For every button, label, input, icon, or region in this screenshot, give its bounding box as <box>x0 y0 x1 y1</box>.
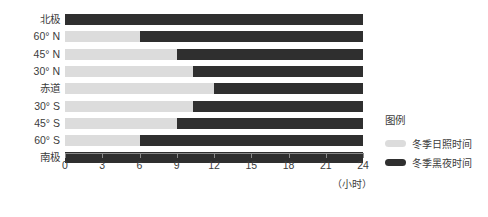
bar-segment <box>65 14 363 25</box>
bar-segment <box>65 66 193 77</box>
axis-tick-label: 21 <box>320 159 332 171</box>
legend-label: 冬季日照时间 <box>412 136 472 151</box>
category-label: 60° N <box>2 31 60 42</box>
bar-row <box>65 66 363 77</box>
bar-segment <box>214 83 363 94</box>
bar-segment <box>65 135 140 146</box>
axis-tick <box>102 153 103 158</box>
bar-row <box>65 49 363 60</box>
bar-segment <box>140 135 364 146</box>
bar-row <box>65 31 363 42</box>
bar-segment <box>177 49 363 60</box>
bar-segment <box>65 101 193 112</box>
bar-segment <box>140 31 364 42</box>
category-label: 北极 <box>2 14 60 25</box>
category-label: 30° S <box>2 101 60 112</box>
axis-tick-label: 3 <box>99 159 105 171</box>
axis-tick <box>177 153 178 158</box>
legend-title: 图例 <box>385 112 472 127</box>
bar-row <box>65 135 363 146</box>
category-axis: 北极60° N45° N30° N赤道30° S45° S60° S南极 <box>0 14 60 153</box>
axis-tick-label: 18 <box>283 159 295 171</box>
category-label: 45° S <box>2 118 60 129</box>
bar-segment <box>193 101 363 112</box>
category-label: 30° N <box>2 66 60 77</box>
winter-daylight-bar-chart: 北极60° N45° N30° N赤道30° S45° S60° S南极 036… <box>0 0 488 217</box>
axis-tick-label: 6 <box>137 159 143 171</box>
axis-tick <box>326 153 327 158</box>
bar-segment <box>177 118 363 129</box>
axis-tick <box>289 153 290 158</box>
bar-segment <box>65 83 214 94</box>
bar-segment <box>65 49 177 60</box>
axis-tick <box>214 153 215 158</box>
bar-row <box>65 118 363 129</box>
axis-tick <box>363 153 364 158</box>
bar-segment <box>65 31 140 42</box>
axis-unit-label: （小时） <box>332 176 372 191</box>
legend-swatch-icon <box>385 159 406 166</box>
axis-tick-label: 15 <box>245 159 257 171</box>
legend-swatch-icon <box>385 140 406 147</box>
bar-row <box>65 14 363 25</box>
bar-segment <box>65 118 177 129</box>
legend-item: 冬季黑夜时间 <box>385 155 472 170</box>
plot-area <box>65 14 363 153</box>
axis-tick <box>251 153 252 158</box>
axis-tick-label: 9 <box>174 159 180 171</box>
axis-tick-label: 12 <box>208 159 220 171</box>
bar-row <box>65 101 363 112</box>
legend-items: 冬季日照时间冬季黑夜时间 <box>385 136 472 170</box>
category-label: 南极 <box>2 152 60 163</box>
axis-tick <box>140 153 141 158</box>
category-label: 45° N <box>2 49 60 60</box>
legend-item: 冬季日照时间 <box>385 136 472 151</box>
axis-tick-label: 24 <box>357 159 369 171</box>
bar-row <box>65 83 363 94</box>
bar-segment <box>193 66 363 77</box>
axis-tick <box>65 153 66 158</box>
axis-tick-label: 0 <box>62 159 68 171</box>
legend-label: 冬季黑夜时间 <box>412 155 472 170</box>
category-label: 60° S <box>2 135 60 146</box>
legend: 图例 冬季日照时间冬季黑夜时间 <box>385 112 472 174</box>
category-label: 赤道 <box>2 83 60 94</box>
